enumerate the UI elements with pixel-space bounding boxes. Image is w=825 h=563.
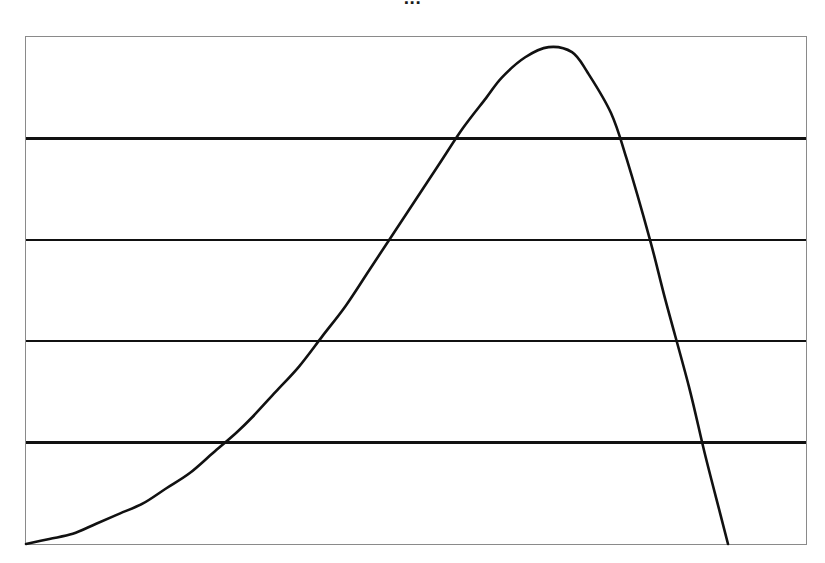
chart-title: ... [0,0,825,7]
gridline-3 [26,340,806,343]
chart-root: ... [0,0,825,563]
gridline-1 [26,137,806,140]
gridline-4 [26,441,806,444]
plot-frame [25,36,807,545]
gridlines-group [26,37,806,544]
gridline-2 [26,239,806,242]
